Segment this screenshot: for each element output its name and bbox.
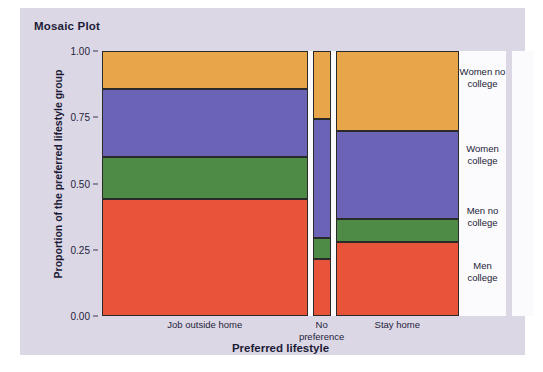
y-tick-label: 0.25 [71,244,90,255]
mosaic-tile[interactable] [336,131,459,220]
figure-panel: Mosaic Plot Proportion of the preferred … [20,8,525,355]
mosaic-tile[interactable] [313,259,331,316]
y-axis-ticks: 0.000.250.500.751.00 [54,43,98,308]
page-title: Mosaic Plot [34,20,100,32]
x-tick-label: Job outside home [102,319,308,331]
y-tick-mark [93,316,98,317]
y-tick-mark [93,117,98,118]
mosaic-tile[interactable] [102,157,308,199]
mosaic-plot-area [102,51,459,316]
legend-item-label: Women college [459,143,506,167]
y-tick-mark [93,249,98,250]
mosaic-column[interactable] [313,51,331,316]
mosaic-tile[interactable] [336,242,459,316]
x-tick-label-line: Stay home [336,319,459,331]
mosaic-tile[interactable] [313,238,331,259]
mosaic-tile[interactable] [336,219,459,242]
legend-item-label: Women no college [459,66,506,90]
y-tick-label: 0.75 [71,112,90,123]
y-tick-mark [93,51,98,52]
legend-item-label: Men college [459,260,506,284]
x-tick-label-line: Job outside home [102,319,308,331]
mosaic-column[interactable] [102,51,308,316]
mosaic-tile[interactable] [313,51,331,119]
y-tick-label: 1.00 [71,46,90,57]
mosaic-tile[interactable] [102,199,308,316]
y-tick-label: 0.00 [71,311,90,322]
mosaic-tile[interactable] [102,89,308,157]
mosaic-tile[interactable] [102,51,308,89]
mosaic-tile[interactable] [336,51,459,131]
legend-strip-panel [512,51,534,316]
x-tick-label: Stay home [336,319,459,331]
y-tick-label: 0.50 [71,178,90,189]
legend-labels-panel: Women no collegeWomen collegeMen no coll… [459,51,506,316]
y-tick-mark [93,183,98,184]
legend-item-label: Men no college [459,205,506,229]
mosaic-tile[interactable] [313,119,331,238]
mosaic-column[interactable] [336,51,459,316]
x-axis-title: Preferred lifestyle [102,342,459,354]
